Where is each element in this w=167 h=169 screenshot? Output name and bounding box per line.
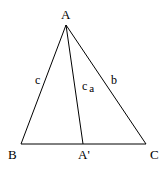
side-label-b: b xyxy=(111,73,117,87)
side-label-ca-main: c xyxy=(82,79,87,93)
vertex-label-A-prime: A' xyxy=(78,147,90,162)
cevian-AA-prime xyxy=(66,25,83,144)
side-label-c: c xyxy=(35,73,40,87)
side-AC xyxy=(66,25,146,144)
side-label-ca: ca xyxy=(82,79,94,94)
side-AB xyxy=(21,25,66,144)
vertex-label-A: A xyxy=(61,7,71,22)
side-label-ca-subscript: a xyxy=(89,82,94,94)
vertex-label-B: B xyxy=(8,147,17,162)
vertex-label-C: C xyxy=(150,147,159,162)
triangle-diagram: A B C A' c b ca xyxy=(0,0,167,169)
